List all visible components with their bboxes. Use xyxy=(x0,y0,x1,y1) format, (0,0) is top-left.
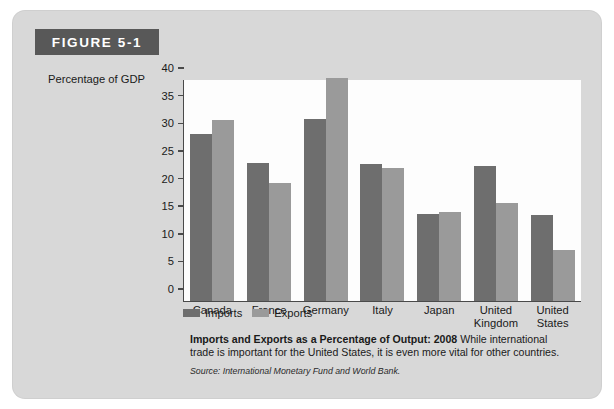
y-axis-tick: 20 xyxy=(162,173,184,185)
y-axis-tick-mark xyxy=(178,67,184,69)
bar-group xyxy=(411,212,468,302)
y-axis-label: Percentage of GDP xyxy=(48,73,145,85)
caption-title: Imports and Exports as a Percentage of O… xyxy=(190,333,457,345)
bar-imports xyxy=(304,119,326,301)
bar-imports xyxy=(190,134,212,301)
y-axis-tick-label: 5 xyxy=(168,255,174,267)
y-axis-tick-label: 10 xyxy=(162,228,174,240)
category-label: United Kingdom xyxy=(468,304,525,329)
bar-exports xyxy=(326,78,348,301)
y-axis-tick-label: 20 xyxy=(162,173,174,185)
y-axis-tick: 35 xyxy=(162,90,184,102)
legend-swatch xyxy=(252,309,269,317)
legend-label: Exports xyxy=(274,307,312,319)
y-axis-tick-label: 15 xyxy=(162,200,174,212)
y-axis-tick-mark xyxy=(178,95,184,97)
bar-exports xyxy=(269,183,291,301)
bar-imports xyxy=(247,163,269,301)
caption-source: Source: International Monetary Fund and … xyxy=(190,366,570,376)
figure-panel: FIGURE 5-1 Percentage of GDP 05101520253… xyxy=(13,11,601,398)
y-axis-tick: 40 xyxy=(162,62,184,74)
figure-number-tab: FIGURE 5-1 xyxy=(35,29,159,55)
legend-item-imports: Imports xyxy=(183,307,242,319)
bar-group xyxy=(468,166,525,301)
chart-legend: ImportsExports xyxy=(183,307,312,319)
y-axis-tick-label: 0 xyxy=(168,283,174,295)
category-label: Italy xyxy=(354,304,411,317)
y-axis-tick-label: 30 xyxy=(162,117,174,129)
y-axis-tick: 0 xyxy=(168,283,184,295)
bar-group xyxy=(297,78,354,301)
bar-imports xyxy=(531,215,553,301)
category-label: United States xyxy=(524,304,581,329)
bar-imports xyxy=(474,166,496,301)
legend-label: Imports xyxy=(205,307,242,319)
bar-exports xyxy=(496,203,518,301)
caption-text: Imports and Exports as a Percentage of O… xyxy=(190,333,570,360)
bar-group xyxy=(354,164,411,301)
y-axis-tick: 25 xyxy=(162,145,184,157)
bar-group xyxy=(241,163,298,301)
bar-imports xyxy=(360,164,382,301)
category-label: Japan xyxy=(411,304,468,317)
bar-imports xyxy=(417,214,439,301)
y-axis-tick: 15 xyxy=(162,200,184,212)
bar-exports xyxy=(439,212,461,302)
y-axis-tick-label: 25 xyxy=(162,145,174,157)
bar-exports xyxy=(553,250,575,301)
caption-block: Imports and Exports as a Percentage of O… xyxy=(190,333,570,376)
plot-region: 0510152025303540 CanadaFranceGermanyItal… xyxy=(183,80,581,302)
y-axis-tick-label: 40 xyxy=(162,62,174,74)
chart-area: Percentage of GDP 0510152025303540 Canad… xyxy=(35,59,583,307)
bar-group xyxy=(524,215,581,301)
bar-exports xyxy=(382,168,404,301)
y-axis-tick: 10 xyxy=(162,228,184,240)
y-axis-tick-label: 35 xyxy=(162,90,174,102)
legend-item-exports: Exports xyxy=(252,307,312,319)
y-axis-tick: 5 xyxy=(168,255,184,267)
bar-group xyxy=(184,120,241,301)
bar-exports xyxy=(212,120,234,301)
y-axis-tick: 30 xyxy=(162,117,184,129)
legend-swatch xyxy=(183,309,200,317)
figure-number-label: FIGURE 5-1 xyxy=(52,35,142,50)
